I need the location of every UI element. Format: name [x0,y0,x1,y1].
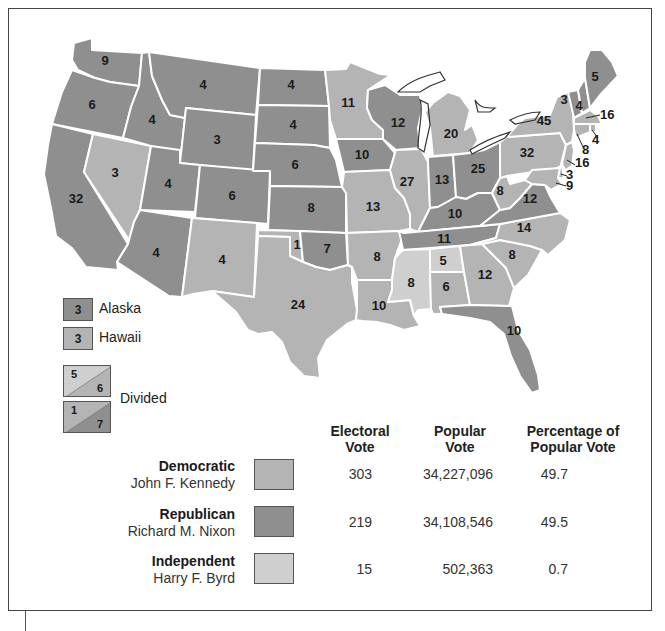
divided-top-value: 1 [71,404,77,416]
ev-label-VA: 12 [523,191,537,206]
ev-label-IA: 10 [355,147,369,162]
party-name: Independent [35,553,235,570]
ev-label-NE: 6 [291,157,298,172]
hawaii-swatch: 3 [63,327,93,350]
republican-popular: 34,108,546 [400,514,493,530]
democratic-percent: 49.7 [500,466,568,482]
ev-label-NM: 4 [218,252,226,267]
ev-label-LA: 10 [372,298,386,313]
ev-label-SD: 4 [289,117,297,132]
ev-label-MO: 13 [366,199,380,214]
alaska-ev: 3 [75,303,82,317]
state-MI[interactable] [425,92,478,156]
ev-label-WY: 3 [213,132,220,147]
divided-bottom-value: 6 [97,382,103,394]
ev-label-MT: 4 [199,77,207,92]
ev-label-ID: 4 [148,112,156,127]
ev-label-MN: 11 [341,95,355,110]
header-percentage-popular-vote: Percentage of Popular Vote [503,423,643,455]
candidate-name: John F. Kennedy [35,475,235,492]
ev-label-AZ: 4 [152,245,160,260]
ev-label-TX: 24 [291,297,306,312]
ev-label-KS: 8 [307,200,314,215]
divided-swatch-oklahoma: 1 7 [63,401,111,433]
party-name: Republican [35,506,235,523]
ev-label-FL: 10 [507,323,521,338]
ev-label-UT: 4 [164,176,172,191]
ev-label-MS: 8 [407,275,414,290]
ev-label-AR: 8 [373,249,380,264]
ev-label-SC: 8 [508,247,515,262]
ev-label-NJ: 16 [575,155,589,170]
hawaii-ev: 3 [75,332,82,346]
state-ME[interactable] [585,50,618,108]
party-republican: Republican Richard M. Nixon [35,506,235,540]
header-line: Electoral [315,423,405,439]
republican-percent: 49.5 [500,514,568,530]
ev-label-KY: 10 [448,206,462,221]
independent-swatch [254,553,294,584]
ev-label-CO: 6 [228,188,235,203]
divided-bottom-value: 7 [97,418,103,430]
ev-label-IL: 27 [400,174,414,189]
party-independent: Independent Harry F. Byrd [35,553,235,587]
state-AL-top[interactable] [430,246,464,272]
republican-electoral: 219 [320,514,372,530]
candidate-name: Harry F. Byrd [35,570,235,587]
header-popular-vote: Popular Vote [415,423,505,455]
ev-label-PA: 32 [520,145,534,160]
ev-label-OK-split: 1 [293,237,300,252]
independent-popular: 502,363 [400,561,493,577]
state-CT[interactable] [574,124,590,138]
ev-label-ND: 4 [287,77,295,92]
party-democratic: Democratic John F. Kennedy [35,458,235,492]
ev-label-RI: 4 [592,132,600,147]
ev-label-OR: 6 [88,97,95,112]
ev-label-MI: 20 [444,126,458,141]
ev-label-TN: 11 [437,231,451,246]
independent-percent: 0.7 [500,561,568,577]
alaska-label: Alaska [99,300,141,316]
ev-label-WV: 8 [496,183,503,198]
ev-label-OK: 7 [323,241,330,256]
header-line: Percentage of [503,423,643,439]
header-line: Popular [415,423,505,439]
ev-label-IN: 13 [435,172,449,187]
party-name: Democratic [35,458,235,475]
ev-label-NV: 3 [111,165,118,180]
democratic-swatch [254,459,294,490]
independent-electoral: 15 [320,561,372,577]
ev-label-GA: 12 [478,267,492,282]
ev-label-NC: 14 [517,220,532,235]
divided-label: Divided [120,390,167,406]
divided-swatch-alabama: 5 6 [63,365,111,397]
divided-top-value: 5 [71,368,77,380]
alaska-swatch: 3 [63,298,93,321]
ev-label-AL-top: 5 [439,253,446,268]
header-line: Vote [315,439,405,455]
ev-label-VT: 3 [560,92,567,107]
hawaii-label: Hawaii [99,329,141,345]
ev-label-OH: 25 [471,161,485,176]
ev-label-MD: 9 [566,178,573,193]
header-line: Popular Vote [503,439,643,455]
republican-swatch [254,506,294,537]
ev-label-NY: 45 [537,113,551,128]
state-FL[interactable] [440,305,540,393]
ev-label-MA: 16 [600,107,614,122]
ev-label-WI: 12 [391,115,405,130]
ev-label-AL-bottom: 6 [442,279,449,294]
ev-label-NH: 4 [575,98,583,113]
ev-label-ME: 5 [591,69,598,84]
democratic-electoral: 303 [320,466,372,482]
ev-label-CA: 32 [69,191,83,206]
democratic-popular: 34,227,096 [400,466,493,482]
header-line: Vote [415,439,505,455]
candidate-name: Richard M. Nixon [35,523,235,540]
ev-label-WA: 9 [101,53,108,68]
header-electoral-vote: Electoral Vote [315,423,405,455]
